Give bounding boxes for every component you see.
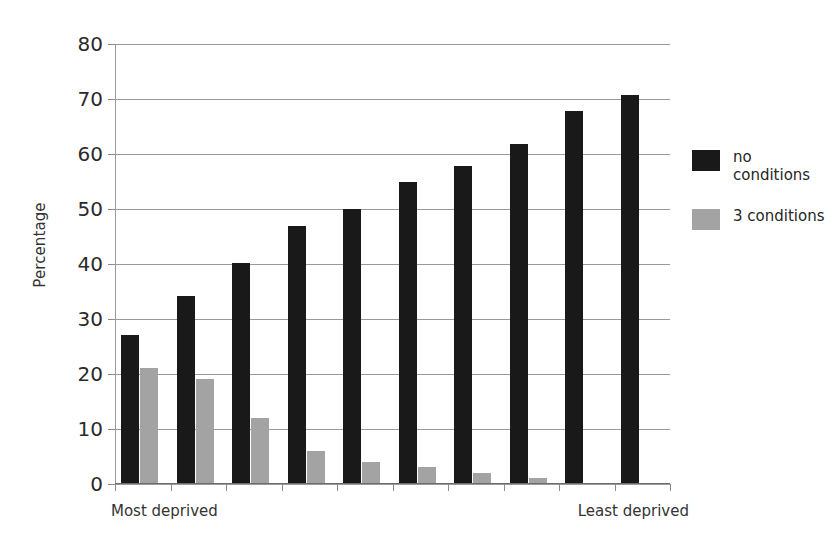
y-axis-tick-label: 0 (90, 474, 103, 494)
legend-label: no conditions (733, 148, 810, 185)
bar-group (171, 43, 227, 483)
y-axis-tick-mark (108, 374, 115, 375)
bar (140, 368, 158, 483)
y-axis-tick-mark (108, 264, 115, 265)
y-axis-line (115, 44, 116, 484)
x-axis-tick-mark (171, 484, 172, 491)
bar-group (226, 43, 282, 483)
legend: no conditions3 conditions (692, 148, 832, 252)
y-axis-tick-mark (108, 154, 115, 155)
bar-group (393, 43, 449, 483)
bar (621, 95, 639, 483)
x-axis-tick-mark (393, 484, 394, 491)
bar (288, 226, 306, 483)
legend-swatch (692, 209, 720, 230)
bar (362, 462, 380, 483)
bar (454, 166, 472, 483)
y-axis-tick-mark (108, 484, 115, 485)
x-axis-tick-mark (282, 484, 283, 491)
legend-swatch (692, 150, 720, 171)
legend-label: 3 conditions (733, 207, 824, 225)
y-axis-tick-mark (108, 44, 115, 45)
plot-area: 01020304050607080 Most deprivedLeast dep… (115, 44, 670, 484)
bar (343, 209, 361, 483)
bar-chart: Percentage 01020304050607080 Most depriv… (0, 0, 836, 546)
bar (565, 111, 583, 483)
y-axis-tick-label: 20 (78, 364, 103, 384)
y-axis-tick-label: 80 (78, 34, 103, 54)
x-axis-tick-mark (559, 484, 560, 491)
bar (418, 467, 436, 483)
x-axis-tick-mark (448, 484, 449, 491)
bar (196, 379, 214, 483)
bar-group (337, 43, 393, 483)
bar-group (615, 43, 671, 483)
y-axis-tick-label: 10 (78, 419, 103, 439)
x-axis-tick-mark (226, 484, 227, 491)
y-axis-tick-mark (108, 99, 115, 100)
bar-group (282, 43, 338, 483)
bar-group (559, 43, 615, 483)
x-axis-line (115, 483, 670, 484)
legend-item: no conditions (692, 148, 832, 185)
y-axis-tick-label: 60 (78, 144, 103, 164)
y-axis-tick-label: 40 (78, 254, 103, 274)
bar (473, 473, 491, 483)
bar-group (115, 43, 171, 483)
x-axis-tick-mark (115, 484, 116, 491)
y-axis-tick-label: 50 (78, 199, 103, 219)
bar (121, 335, 139, 484)
y-axis-tick-label: 30 (78, 309, 103, 329)
x-axis-tick-mark (504, 484, 505, 491)
bar (307, 451, 325, 483)
x-axis-label-most-deprived: Most deprived (111, 502, 218, 520)
bar (399, 182, 417, 483)
y-axis-tick-mark (108, 429, 115, 430)
bar (510, 144, 528, 483)
y-axis-tick-label: 70 (78, 89, 103, 109)
x-axis-tick-mark (615, 484, 616, 491)
bar (251, 418, 269, 483)
bar-group (448, 43, 504, 483)
bar (177, 296, 195, 483)
y-axis-title: Percentage (31, 175, 49, 315)
legend-item: 3 conditions (692, 207, 832, 230)
x-axis-tick-mark (670, 484, 671, 491)
y-axis-tick-mark (108, 209, 115, 210)
x-axis-label-least-deprived: Least deprived (578, 502, 689, 520)
y-axis-tick-mark (108, 319, 115, 320)
bar-group (504, 43, 560, 483)
x-axis-tick-mark (337, 484, 338, 491)
bar (232, 263, 250, 483)
